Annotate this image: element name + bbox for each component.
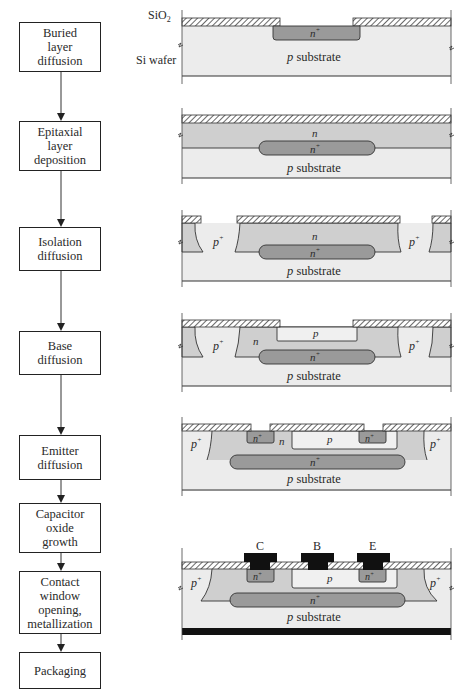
arrow-down-icon <box>57 113 65 121</box>
n-label: n <box>312 127 318 139</box>
arrow-down-icon <box>57 563 65 571</box>
diagram-canvas: n+ p substrate n n+ p substrate p+ <box>0 0 469 698</box>
arrow-down-icon <box>57 495 65 503</box>
terminal-e-label: E <box>369 539 376 553</box>
terminal-b-label: B <box>313 539 321 553</box>
n-label: n <box>279 435 285 447</box>
metal-contacts <box>244 553 390 570</box>
p-label: p <box>312 327 319 339</box>
p-label: p <box>326 572 333 584</box>
cross-section-epitaxial: n n+ p substrate <box>178 108 454 184</box>
n-label: n <box>253 335 259 347</box>
cross-section-isolation: p+ p+ n n+ p substrate <box>178 210 454 287</box>
substrate-label: p substrate <box>286 610 341 624</box>
substrate-label: p substrate <box>286 50 341 64</box>
back-metal <box>182 628 451 635</box>
arrow-down-icon <box>57 427 65 435</box>
substrate-label: p substrate <box>286 472 341 486</box>
collector-plug <box>250 560 270 570</box>
p-label: p <box>326 433 333 445</box>
terminal-c-label: C <box>256 539 264 553</box>
substrate-label: p substrate <box>286 369 341 383</box>
emitter-plug <box>363 560 383 570</box>
arrow-down-icon <box>57 323 65 331</box>
base-plug <box>308 560 328 570</box>
cross-section-emitter: p+ p+ n+ n+ n p n+ p substrate <box>182 417 451 496</box>
substrate-label: p substrate <box>286 264 341 278</box>
substrate-label: p substrate <box>286 161 341 175</box>
arrow-down-icon <box>57 219 65 227</box>
flow-arrows <box>57 72 65 652</box>
cross-section-buried-layer: n+ p substrate <box>178 10 454 84</box>
n-label: n <box>312 230 318 242</box>
cross-section-base: p+ p+ n p n+ p substrate <box>178 313 454 392</box>
cross-section-metallization: C B E p+ p+ n+ n+ p n+ p substrate <box>178 539 454 640</box>
arrow-down-icon <box>57 644 65 652</box>
